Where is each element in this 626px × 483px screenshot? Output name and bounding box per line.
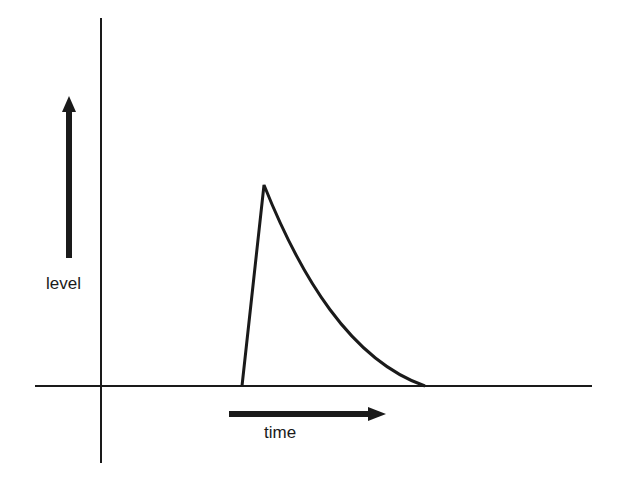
level-arrow-icon [62, 96, 76, 258]
x-axis-label: time [264, 423, 296, 443]
time-arrow-icon [229, 407, 386, 421]
y-axis-label: level [46, 274, 81, 294]
pulse-diagram [0, 0, 626, 483]
pulse-curve [242, 185, 425, 386]
